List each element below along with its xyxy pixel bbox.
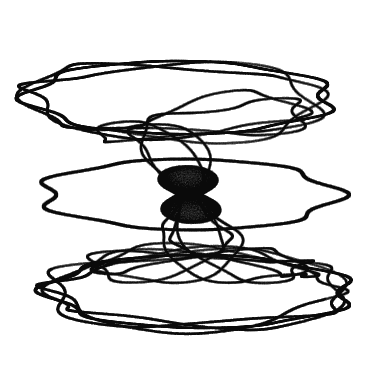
attractor-figure — [0, 0, 371, 387]
attractor-plot-canvas — [0, 0, 371, 387]
